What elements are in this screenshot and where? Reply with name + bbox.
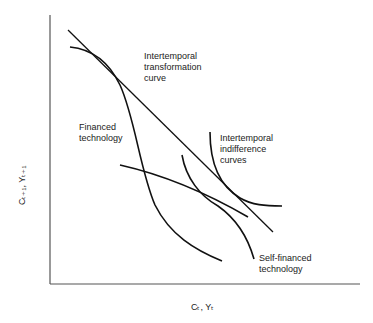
label-indifference-curves: Intertemporal indifference curves	[220, 133, 273, 166]
label-financed-technology: Financed technology	[79, 122, 123, 144]
diagram-canvas	[0, 0, 373, 323]
lower-curve	[120, 165, 248, 217]
y-axis-label-wrap: Cₜ₊₁, Yₜ₊₁	[17, 205, 27, 265]
x-axis-label: Cₜ, Yₜ	[191, 302, 214, 312]
self-financed-technology-curve	[182, 155, 254, 259]
label-transformation-curve: Intertemporal transformation curve	[144, 51, 202, 84]
y-axis-label: Cₜ₊₁, Yₜ₊₁	[17, 166, 27, 205]
label-self-financed-technology: Self-financed technology	[259, 253, 312, 275]
